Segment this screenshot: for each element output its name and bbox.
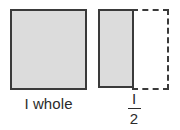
whole-figure-group: I whole [10, 9, 87, 90]
fraction-diagram-canvas: I whole I 2 [0, 0, 180, 130]
fraction-label-one-half: I 2 [119, 91, 149, 126]
fraction-bar [128, 108, 141, 109]
half-unshaded-part-dashed [132, 9, 169, 90]
half-shaded-part [98, 9, 134, 88]
half-figure-group: I 2 [98, 9, 172, 88]
whole-label: I whole [10, 95, 87, 112]
half-square-shape [98, 9, 170, 88]
fraction-numerator: I [119, 91, 149, 107]
whole-square-shape [10, 9, 87, 90]
fraction-denominator: 2 [119, 110, 149, 126]
